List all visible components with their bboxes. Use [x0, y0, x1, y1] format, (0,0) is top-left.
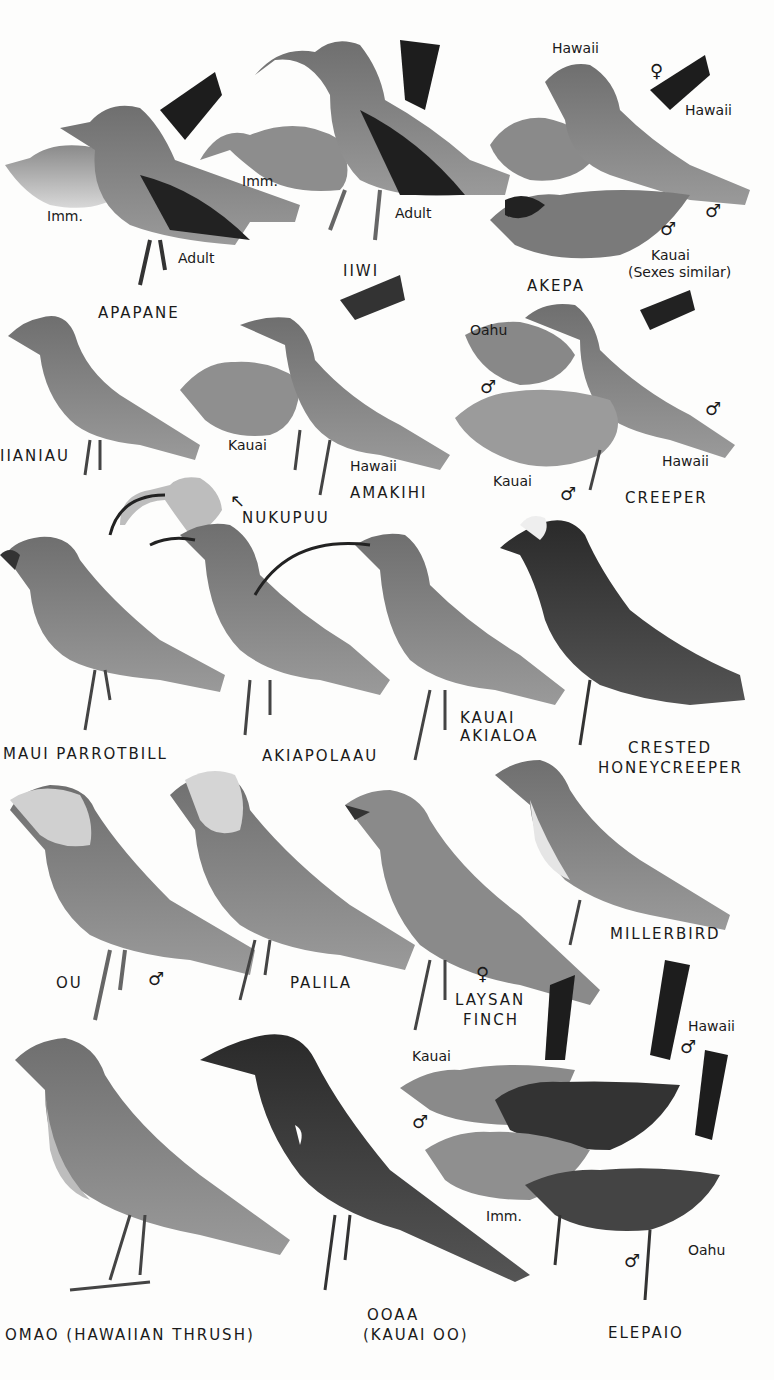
male-symbol: ♂ — [480, 378, 496, 396]
species-akiapolaau: AKIAPOLAAU — [262, 748, 378, 765]
creeper-oahu-label: Oahu — [470, 322, 507, 338]
species-nukupuu: NUKUPUU — [242, 510, 330, 527]
species-kauai-akialoa-line2: AKIALOA — [460, 728, 538, 745]
amakihi-kauai-label: Kauai — [228, 437, 267, 453]
species-ooaa-line2: (KAUAI OO) — [363, 1327, 469, 1344]
species-anianiau: IIANIAU — [0, 448, 70, 465]
species-akepa: AKEPA — [527, 278, 585, 295]
species-creeper: CREEPER — [625, 490, 708, 507]
creeper-hawaii-label: Hawaii — [662, 453, 709, 469]
species-crested-honeycreeper-line2: HONEYCREEPER — [598, 760, 743, 777]
arrow-icon: ↖ — [230, 492, 245, 510]
millerbird-bird — [495, 760, 730, 945]
akepa-hawaii-male-label: Hawaii — [685, 102, 732, 118]
female-symbol: ♀ — [650, 62, 663, 80]
species-millerbird: MILLERBIRD — [610, 926, 721, 943]
male-symbol: ♂ — [412, 1113, 428, 1131]
bird-illustrations — [0, 0, 774, 1380]
amakihi-hawaii-label: Hawaii — [350, 458, 397, 474]
elepaio-oahu-label: Oahu — [688, 1242, 725, 1258]
species-elepaio: ELEPAIO — [608, 1325, 684, 1342]
male-symbol: ♂ — [148, 970, 164, 988]
male-symbol: ♂ — [705, 400, 721, 418]
male-symbol: ♂ — [705, 202, 721, 220]
akiapolaau-bird — [150, 524, 390, 735]
species-palila: PALILA — [290, 975, 352, 992]
elepaio-kauai-label: Kauai — [412, 1048, 451, 1064]
female-symbol: ♀ — [476, 965, 489, 983]
akepa-note-label: (Sexes similar) — [628, 264, 731, 280]
species-omao: OMAO (HAWAIIAN THRUSH) — [5, 1327, 255, 1344]
male-symbol: ♂ — [680, 1038, 696, 1056]
male-symbol: ♂ — [560, 485, 576, 503]
amakihi-birds — [180, 275, 450, 495]
iiwi-adult-label: Adult — [395, 205, 431, 221]
species-apapane: APAPANE — [98, 305, 180, 322]
akepa-hawaii-female-label: Hawaii — [552, 40, 599, 56]
species-kauai-akialoa-line1: KAUAI — [460, 710, 516, 727]
elepaio-imm-label: Imm. — [486, 1208, 522, 1224]
creeper-kauai-label: Kauai — [493, 473, 532, 489]
elepaio-hawaii-label: Hawaii — [688, 1018, 735, 1034]
akepa-birds — [490, 55, 750, 258]
species-amakihi: AMAKIHI — [350, 485, 427, 502]
omao-bird — [15, 1038, 290, 1290]
apapane-adult-label: Adult — [178, 250, 214, 266]
species-iiwi: IIWI — [343, 263, 379, 280]
male-symbol: ♂ — [660, 220, 676, 238]
crested-honeycreeper-bird — [500, 516, 745, 745]
male-symbol: ♂ — [624, 1252, 640, 1270]
species-ou: OU — [56, 975, 83, 992]
species-maui-parrotbill: MAUI PARROTBILL — [3, 746, 168, 763]
apapane-imm-label: Imm. — [47, 208, 83, 224]
maui-parrotbill-bird — [0, 537, 225, 730]
species-crested-honeycreeper-line1: CRESTED — [628, 740, 712, 757]
akepa-kauai-label: Kauai — [651, 247, 690, 263]
species-laysan-finch-line1: LAYSAN — [455, 992, 525, 1009]
species-ooaa-line1: OOAA — [367, 1307, 419, 1324]
iiwi-imm-label: Imm. — [242, 173, 278, 189]
species-laysan-finch-line2: FINCH — [463, 1012, 519, 1029]
